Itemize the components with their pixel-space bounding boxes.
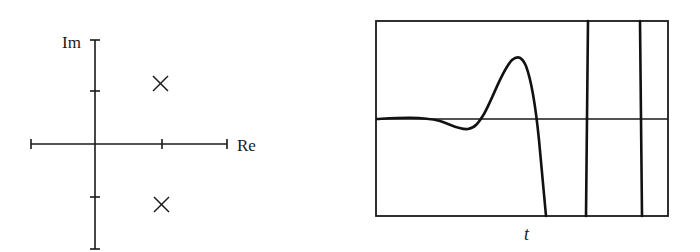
t-axis-label: t	[524, 224, 530, 244]
response-curve-rising-segment	[586, 21, 588, 216]
re-axis-label: Re	[237, 136, 256, 155]
pole-upper-marker-icon	[153, 76, 168, 91]
response-curve	[377, 57, 546, 216]
response-curve-falling-segment	[640, 21, 642, 216]
pole-zero-plot: Im Re	[31, 33, 256, 249]
figure-canvas: Im Re t	[0, 0, 700, 252]
time-response-plot: t	[376, 21, 668, 244]
im-axis-label: Im	[62, 33, 81, 52]
pole-lower-marker-icon	[154, 197, 169, 212]
